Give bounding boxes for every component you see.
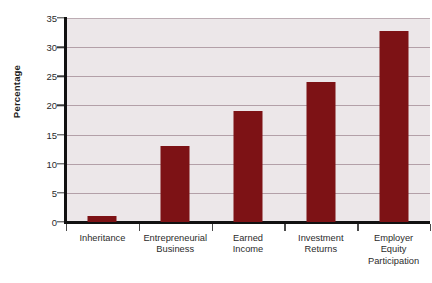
y-tick-label-30: 30 (31, 42, 57, 53)
x-tick-mark-1 (139, 224, 140, 231)
y-axis-ticks: 05101520253035 (0, 0, 57, 283)
x-axis-category-line: Income (208, 244, 289, 255)
x-tick-mark-0 (66, 224, 67, 231)
y-tick-label-35: 35 (31, 13, 57, 24)
bar[interactable] (161, 146, 190, 222)
x-axis-category-line: Business (135, 244, 216, 255)
bar[interactable] (233, 111, 262, 222)
x-axis-category-line: Inheritance (62, 233, 143, 244)
y-tick-mark-15 (57, 134, 64, 135)
bar[interactable] (379, 31, 408, 222)
bar-slot (66, 18, 139, 222)
y-tick-label-20: 20 (31, 100, 57, 111)
x-axis-category-line: Returns (280, 244, 361, 255)
x-axis-category-line: Earned (208, 233, 289, 244)
bar-slot (212, 18, 285, 222)
x-axis-category-line: Investment (280, 233, 361, 244)
y-tick-mark-25 (57, 76, 64, 77)
x-axis-category-line: Employer (353, 233, 432, 244)
y-tick-label-0: 0 (31, 217, 57, 228)
y-tick-mark-5 (57, 192, 64, 193)
x-tick-mark-5 (430, 224, 431, 231)
bar-slot (284, 18, 357, 222)
x-axis-category-line: Participation (353, 256, 432, 267)
x-tick-mark-2 (212, 224, 213, 231)
y-tick-label-10: 10 (31, 158, 57, 169)
x-axis-category-line: Entrepreneurial (135, 233, 216, 244)
x-axis-category-label: EarnedIncome (208, 233, 289, 256)
x-axis-category-label: EntrepreneurialBusiness (135, 233, 216, 256)
x-axis-category-label: InvestmentReturns (280, 233, 361, 256)
y-tick-mark-20 (57, 105, 64, 106)
y-tick-mark-35 (57, 17, 64, 18)
bar-slot (357, 18, 430, 222)
x-axis-category-line: Equity (353, 244, 432, 255)
bar[interactable] (306, 82, 335, 222)
bars-layer (66, 18, 430, 222)
x-axis-category-label: EmployerEquityParticipation (353, 233, 432, 267)
y-tick-mark-0 (57, 221, 64, 222)
x-tick-mark-3 (284, 224, 285, 231)
y-tick-mark-10 (57, 163, 64, 164)
bar[interactable] (88, 216, 117, 222)
x-tick-mark-4 (357, 224, 358, 231)
bar-slot (139, 18, 212, 222)
bar-chart: Percentage 05101520253035 InheritanceEnt… (0, 0, 432, 283)
y-tick-label-5: 5 (31, 187, 57, 198)
y-tick-mark-30 (57, 46, 64, 47)
y-tick-label-15: 15 (31, 129, 57, 140)
y-tick-label-25: 25 (31, 71, 57, 82)
x-axis-category-label: Inheritance (62, 233, 143, 244)
